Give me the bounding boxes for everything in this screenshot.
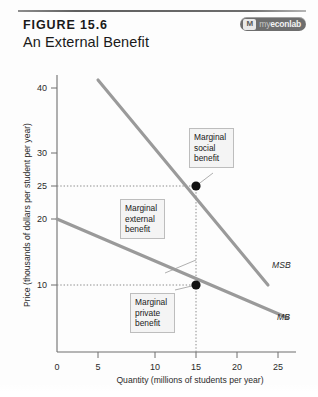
y-tick-30: 30: [37, 148, 47, 158]
y-axis-tick-labels: 40 30 25 20 10: [37, 83, 47, 290]
callout-priv-line-3: benefit: [135, 318, 170, 329]
x-tick-5: 5: [95, 362, 100, 372]
callout-ext-line-3: benefit: [125, 224, 160, 235]
x-tick-0: 0: [54, 362, 59, 372]
callout-marginal-private-benefit: Marginal private benefit: [130, 293, 175, 333]
y-tick-20: 20: [37, 214, 47, 224]
msb-curve-label: MSB: [272, 260, 291, 270]
y-tick-40: 40: [37, 83, 47, 93]
header-divider: [18, 10, 306, 12]
x-axis-tick-labels: 0 5 10 15 20 25: [54, 362, 283, 372]
x-tick-10: 10: [150, 362, 160, 372]
page-bottom-fade: [0, 383, 318, 397]
y-axis-ticks: [51, 88, 57, 285]
x-tick-25: 25: [273, 362, 283, 372]
y-tick-10: 10: [37, 280, 47, 290]
y-axis-title: Price (thousands of dollars per student …: [22, 123, 32, 307]
myeconlab-name: econlab: [270, 19, 301, 29]
figure-number: FIGURE 15.6: [23, 18, 108, 32]
y-tick-25: 25: [37, 181, 47, 191]
callout-marginal-external-benefit: Marginal external benefit: [120, 199, 165, 239]
myeconlab-badge[interactable]: M myeconlab: [240, 17, 306, 31]
figure-title: An External Benefit: [23, 34, 149, 50]
callout-msb-line-3: benefit: [194, 153, 229, 164]
social-benefit-point: [191, 181, 200, 190]
x-tick-15: 15: [191, 362, 201, 372]
callout-msb-line-1: Marginal: [194, 132, 229, 143]
mb-curve-label: MB: [277, 312, 290, 322]
msb-curve: [98, 80, 268, 285]
myeconlab-logo-icon: M: [243, 19, 256, 30]
private-benefit-point: [191, 280, 200, 289]
myeconlab-label: myeconlab: [259, 20, 301, 29]
myeconlab-prefix: my: [259, 19, 270, 29]
figure-page: FIGURE 15.6 An External Benefit M myecon…: [0, 0, 318, 397]
callout-priv-line-2: private: [135, 308, 170, 319]
callout-priv-line-1: Marginal: [135, 297, 170, 308]
callout-ext-line-1: Marginal: [125, 203, 160, 214]
x-tick-20: 20: [232, 362, 242, 372]
callout-msb-line-2: social: [194, 143, 229, 154]
callout-marginal-social-benefit: Marginal social benefit: [189, 128, 234, 168]
x-axis-ticks: [98, 352, 278, 358]
callout-ext-line-2: external: [125, 214, 160, 225]
